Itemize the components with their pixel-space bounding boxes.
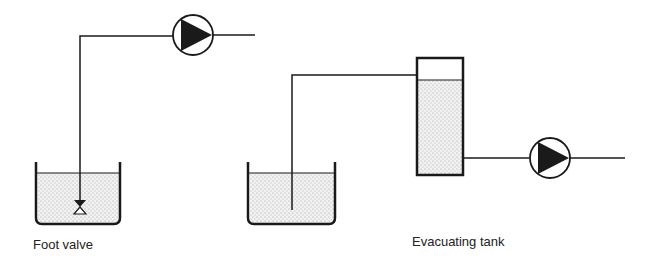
left-pump-icon [173, 15, 213, 55]
evacuating-tank-liquid [418, 80, 462, 174]
right-pump-icon [530, 138, 570, 178]
left-system [36, 15, 255, 224]
evacuating-tank-label: Evacuating tank [412, 234, 505, 249]
diagram-canvas [0, 0, 663, 265]
right-system [248, 58, 625, 224]
foot-valve-label: Foot valve [33, 237, 93, 252]
left-tank-liquid [38, 173, 119, 223]
